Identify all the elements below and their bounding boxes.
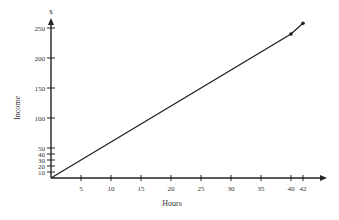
x-tick-label: 42 [300, 185, 308, 193]
y-axis-title: Income [13, 96, 22, 120]
x-axis-arrow-icon [320, 175, 327, 181]
x-tick-label: 25 [198, 185, 206, 193]
x-axis-title: Hours [162, 199, 182, 208]
series [51, 21, 305, 178]
y-tick-label: 50 [38, 145, 46, 153]
data-point-marker [289, 32, 293, 36]
y-tick-label: 250 [35, 25, 46, 33]
y-tick-label: 150 [35, 85, 46, 93]
y-tick-label: 100 [35, 115, 46, 123]
data-point-marker [301, 21, 305, 25]
x-tick-label: 40 [288, 185, 296, 193]
y-tick-label: 200 [35, 55, 46, 63]
x-tick-label: 20 [168, 185, 176, 193]
x-tick-label: 10 [108, 185, 116, 193]
x-tick-label: 5 [79, 185, 83, 193]
y-axis-arrow-icon [48, 18, 54, 25]
x-tick-label: 15 [138, 185, 146, 193]
x-tick-label: 30 [228, 185, 236, 193]
x-tick-label: 35 [258, 185, 266, 193]
y-ticks: 1020304050100150200250 [35, 25, 56, 177]
y-unit-label: $ [49, 8, 53, 16]
income-line [51, 23, 303, 178]
income-vs-hours-chart: $ 51015202530354042 10203040501001502002… [0, 0, 339, 220]
